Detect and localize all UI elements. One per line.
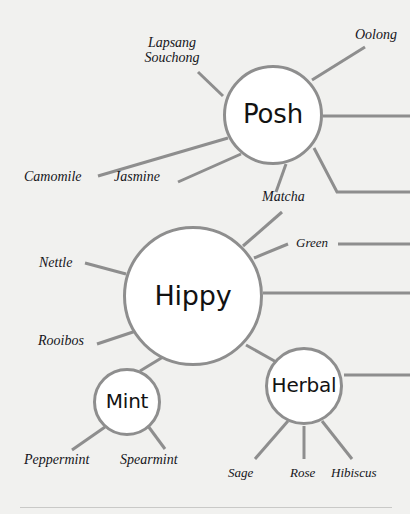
- edge-hippy-green: [254, 244, 288, 258]
- leaf-label-lapsang-souchong[interactable]: Lapsang Souchong: [134, 36, 210, 65]
- edge-hippy-matcha: [243, 212, 282, 246]
- edge-mint-spearmint: [148, 426, 165, 449]
- edge-herbal-sage: [255, 421, 288, 459]
- leaf-label-peppermint[interactable]: Peppermint: [24, 453, 89, 468]
- leaf-label-green[interactable]: Green: [296, 236, 328, 250]
- leaf-label-rose[interactable]: Rose: [290, 466, 315, 480]
- edge-hippy-rooibos: [97, 331, 136, 344]
- node-label-posh: Posh: [243, 101, 303, 127]
- node-posh[interactable]: Posh: [223, 65, 323, 165]
- node-mint[interactable]: Mint: [93, 368, 161, 436]
- node-label-herbal: Herbal: [272, 375, 337, 395]
- footer-divider: [20, 507, 392, 508]
- edge-herbal-hibiscus: [322, 421, 352, 459]
- leaf-label-hibiscus[interactable]: Hibiscus: [331, 466, 377, 480]
- edge-posh-lapsang: [198, 72, 223, 96]
- node-label-hippy: Hippy: [154, 282, 231, 309]
- leaf-label-nettle[interactable]: Nettle: [39, 256, 72, 271]
- leaf-label-camomile[interactable]: Camomile: [24, 170, 82, 185]
- node-herbal[interactable]: Herbal: [265, 347, 343, 425]
- node-hippy[interactable]: Hippy: [123, 226, 263, 366]
- leaf-label-matcha[interactable]: Matcha: [262, 190, 305, 205]
- edge-hippy-mint: [140, 357, 163, 371]
- leaf-label-rooibos[interactable]: Rooibos: [38, 334, 84, 349]
- leaf-label-jasmine[interactable]: Jasmine: [114, 170, 160, 185]
- leaf-label-spearmint[interactable]: Spearmint: [120, 453, 178, 468]
- leaf-label-sage[interactable]: Sage: [228, 466, 253, 480]
- leaf-label-oolong[interactable]: Oolong: [355, 28, 397, 43]
- edge-posh-jasmine: [178, 154, 241, 182]
- edge-mint-peppermint: [72, 427, 105, 450]
- diagram-canvas: PoshHippyMintHerbal Lapsang SouchongOolo…: [0, 0, 410, 514]
- edge-posh-right-2: [314, 148, 410, 192]
- edge-posh-matcha: [276, 164, 286, 192]
- edge-posh-oolong: [312, 47, 365, 80]
- edge-hippy-nettle: [85, 263, 126, 274]
- node-label-mint: Mint: [106, 391, 149, 411]
